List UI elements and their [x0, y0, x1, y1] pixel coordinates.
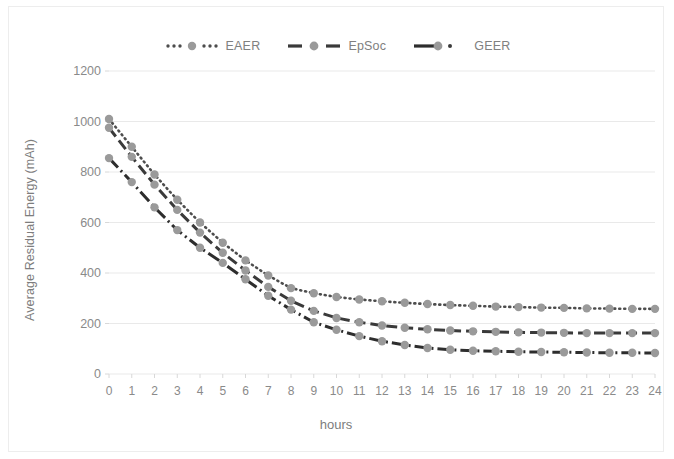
series-marker-eaer	[150, 170, 158, 178]
series-marker-geer	[332, 326, 340, 334]
series-marker-eaer	[332, 293, 340, 301]
series-line-eaer	[109, 119, 655, 309]
y-tick-label: 200	[57, 317, 101, 331]
series-marker-epsoc	[310, 307, 318, 315]
series-marker-epsoc	[628, 329, 636, 337]
series-marker-epsoc	[173, 206, 181, 214]
series-marker-eaer	[310, 289, 318, 297]
series-marker-epsoc	[469, 327, 477, 335]
series-marker-epsoc	[446, 326, 454, 334]
series-marker-eaer	[651, 305, 659, 313]
series-marker-epsoc	[423, 325, 431, 333]
series-marker-eaer	[264, 271, 272, 279]
series-marker-eaer	[583, 304, 591, 312]
x-axis-title: hours	[9, 417, 663, 432]
series-marker-eaer	[287, 284, 295, 292]
y-tick-label: 1200	[57, 64, 101, 78]
series-marker-eaer	[196, 218, 204, 226]
series-marker-geer	[469, 347, 477, 355]
series-marker-eaer	[241, 256, 249, 264]
series-marker-eaer	[219, 239, 227, 247]
series-marker-geer	[628, 349, 636, 357]
series-marker-epsoc	[128, 153, 136, 161]
series-marker-epsoc	[264, 283, 272, 291]
series-marker-eaer	[560, 304, 568, 312]
series-marker-eaer	[128, 143, 136, 151]
series-marker-eaer	[173, 196, 181, 204]
series-marker-epsoc	[287, 297, 295, 305]
series-marker-geer	[196, 244, 204, 252]
series-marker-epsoc	[378, 321, 386, 329]
series-marker-epsoc	[105, 124, 113, 132]
series-marker-geer	[105, 154, 113, 162]
series-marker-epsoc	[537, 328, 545, 336]
series-marker-geer	[605, 349, 613, 357]
y-tick-label: 800	[57, 165, 101, 179]
series-marker-geer	[355, 332, 363, 340]
series-marker-eaer	[105, 115, 113, 123]
series-marker-geer	[150, 203, 158, 211]
y-tick-label: 0	[57, 367, 101, 381]
series-marker-epsoc	[514, 328, 522, 336]
series-marker-geer	[514, 348, 522, 356]
series-marker-geer	[446, 346, 454, 354]
series-marker-epsoc	[651, 329, 659, 337]
series-marker-geer	[128, 178, 136, 186]
y-tick-label: 600	[57, 216, 101, 230]
series-marker-eaer	[446, 301, 454, 309]
series-marker-epsoc	[219, 249, 227, 257]
series-marker-geer	[219, 259, 227, 267]
series-marker-eaer	[423, 300, 431, 308]
chart-figure: Average Residual Energy (mAh) EAER	[8, 6, 664, 452]
series-marker-epsoc	[401, 324, 409, 332]
y-tick-label: 400	[57, 266, 101, 280]
series-marker-geer	[537, 348, 545, 356]
series-marker-geer	[378, 337, 386, 345]
series-marker-epsoc	[355, 318, 363, 326]
series-marker-geer	[173, 226, 181, 234]
series-marker-geer	[401, 341, 409, 349]
x-tick-label: 24	[640, 384, 670, 398]
series-marker-eaer	[514, 303, 522, 311]
series-marker-geer	[651, 349, 659, 357]
series-marker-eaer	[605, 304, 613, 312]
y-tick-label: 1000	[57, 115, 101, 129]
series-marker-eaer	[469, 302, 477, 310]
series-marker-epsoc	[332, 314, 340, 322]
series-marker-epsoc	[560, 329, 568, 337]
series-marker-eaer	[537, 303, 545, 311]
series-marker-geer	[264, 292, 272, 300]
series-marker-epsoc	[583, 329, 591, 337]
series-marker-geer	[287, 305, 295, 313]
series-marker-epsoc	[150, 180, 158, 188]
series-marker-epsoc	[492, 328, 500, 336]
series-marker-geer	[423, 344, 431, 352]
series-marker-eaer	[628, 305, 636, 313]
series-marker-epsoc	[196, 228, 204, 236]
series-marker-eaer	[401, 299, 409, 307]
series-marker-geer	[241, 275, 249, 283]
series-marker-geer	[560, 348, 568, 356]
series-marker-eaer	[355, 295, 363, 303]
series-marker-geer	[583, 348, 591, 356]
series-marker-eaer	[378, 297, 386, 305]
series-marker-epsoc	[605, 329, 613, 337]
series-marker-eaer	[492, 302, 500, 310]
series-marker-geer	[310, 318, 318, 326]
series-marker-geer	[492, 347, 500, 355]
series-marker-epsoc	[241, 266, 249, 274]
